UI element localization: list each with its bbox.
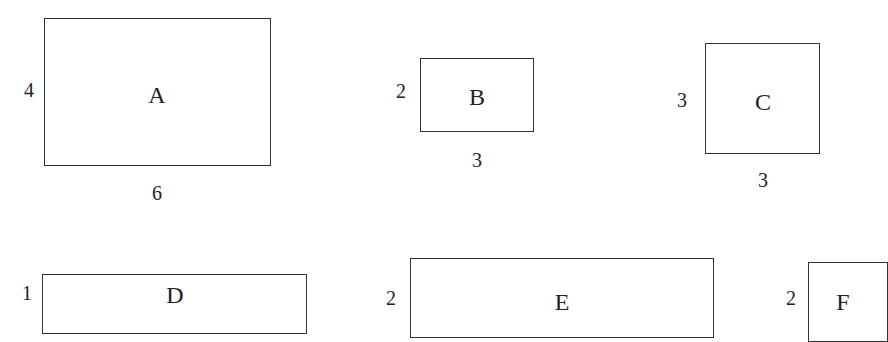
rectangle-b-label: B	[469, 84, 485, 111]
rectangle-b-width: 3	[472, 149, 482, 172]
rectangle-a-height: 4	[24, 79, 34, 102]
rectangle-a-label: A	[148, 82, 165, 109]
rectangle-f-height: 2	[786, 287, 796, 310]
rectangle-c-label: C	[755, 89, 771, 116]
rectangle-a-width: 6	[152, 182, 162, 205]
rectangle-c-height: 3	[677, 89, 687, 112]
rectangle-d-label: D	[166, 282, 183, 309]
rectangle-e-height: 2	[386, 287, 396, 310]
rectangle-f-label: F	[836, 289, 849, 316]
rectangle-e-label: E	[555, 289, 570, 316]
rectangle-b-height: 2	[396, 80, 406, 103]
rectangle-c-width: 3	[758, 169, 768, 192]
rectangle-d-height: 1	[22, 282, 32, 305]
